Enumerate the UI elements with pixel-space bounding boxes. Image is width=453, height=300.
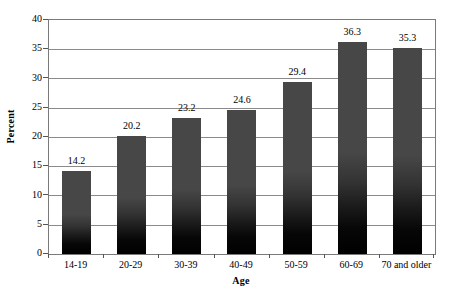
bar-slot: 14.2: [49, 20, 104, 254]
bar-slot: 36.3: [325, 20, 380, 254]
bar-slot: 23.2: [159, 20, 214, 254]
x-axis-title: Age: [48, 275, 434, 286]
y-tick-label: 35: [22, 43, 42, 53]
x-tick-label: 50-59: [269, 258, 324, 274]
bar-value-label: 36.3: [344, 27, 362, 37]
x-tick-label: 30-39: [158, 258, 213, 274]
y-tick-label: 30: [22, 73, 42, 83]
y-tick-label: 15: [22, 160, 42, 170]
x-tick-label: 20-29: [103, 258, 158, 274]
y-tick-label: 10: [22, 190, 42, 200]
bar[interactable]: 14.2: [62, 171, 91, 254]
y-tick-label: 0: [22, 248, 42, 258]
plot-area: 14.2 20.2 23.2 24.6 29.4: [48, 19, 436, 255]
y-axis-tick-labels: 40 35 30 25 20 15 10 5 0: [22, 19, 42, 253]
bar-slot: 20.2: [104, 20, 159, 254]
bar-slot: 35.3: [380, 20, 435, 254]
bar-chart: Percent 40 35 30 25 20 15 10 5 0: [0, 0, 453, 300]
y-tick-label: 5: [22, 219, 42, 229]
x-tick-label: 14-19: [48, 258, 103, 274]
bar-value-label: 35.3: [399, 33, 417, 43]
bar-value-label: 24.6: [233, 95, 251, 105]
y-tick-label: 40: [22, 14, 42, 24]
x-tick-label: 60-69: [324, 258, 379, 274]
bar-slot: 24.6: [214, 20, 269, 254]
x-tick-label: 70 and older: [379, 258, 434, 274]
bar[interactable]: 35.3: [393, 48, 422, 255]
bar[interactable]: 29.4: [283, 82, 312, 254]
bar[interactable]: 24.6: [227, 110, 256, 254]
x-axis-tick-labels: 14-19 20-29 30-39 40-49 50-59 60-69 70 a…: [48, 258, 434, 274]
bar-value-label: 29.4: [288, 67, 306, 77]
bar-value-label: 20.2: [123, 121, 141, 131]
y-axis-title: Percent: [0, 0, 22, 253]
y-axis-title-text: Percent: [6, 110, 17, 144]
bar-value-label: 14.2: [68, 156, 86, 166]
bar-value-label: 23.2: [178, 103, 196, 113]
y-tick-label: 20: [22, 131, 42, 141]
bar[interactable]: 20.2: [117, 136, 146, 254]
x-tick-label: 40-49: [213, 258, 268, 274]
bar[interactable]: 36.3: [338, 42, 367, 254]
bar[interactable]: 23.2: [172, 118, 201, 254]
bar-slot: 29.4: [270, 20, 325, 254]
y-tick-label: 25: [22, 102, 42, 112]
bars-layer: 14.2 20.2 23.2 24.6 29.4: [49, 20, 435, 254]
